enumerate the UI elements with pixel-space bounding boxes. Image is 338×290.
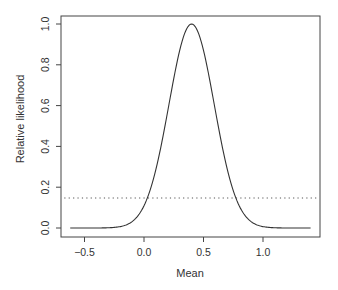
y-tick-label: 0.0 bbox=[39, 221, 51, 236]
y-tick-label: 0.2 bbox=[39, 180, 51, 195]
y-axis-label: Relative likelihood bbox=[14, 75, 26, 164]
x-tick-label: 1.0 bbox=[256, 246, 271, 258]
y-tick-label: 1.0 bbox=[39, 17, 51, 32]
likelihood-chart: −0.50.00.51.0 0.00.20.40.60.81.0 Mean Re… bbox=[0, 0, 338, 290]
likelihood-curve bbox=[70, 24, 310, 228]
x-tick-label: 0.5 bbox=[196, 246, 211, 258]
x-axis-label: Mean bbox=[176, 267, 204, 279]
y-tick-label: 0.6 bbox=[39, 98, 51, 113]
plot-frame bbox=[61, 16, 320, 237]
x-tick-label: −0.5 bbox=[74, 246, 95, 258]
y-tick-label: 0.4 bbox=[39, 139, 51, 154]
y-axis: 0.00.20.40.60.81.0 bbox=[39, 17, 61, 236]
x-axis: −0.50.00.51.0 bbox=[74, 237, 270, 258]
y-tick-label: 0.8 bbox=[39, 57, 51, 72]
x-tick-label: 0.0 bbox=[137, 246, 152, 258]
